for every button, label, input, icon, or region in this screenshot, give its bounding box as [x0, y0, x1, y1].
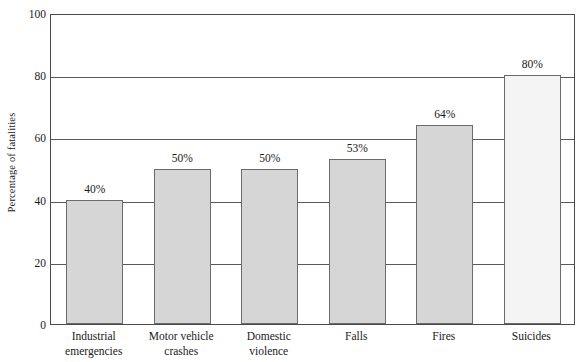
- bar-value-label: 40%: [84, 183, 105, 195]
- bar: [416, 125, 473, 324]
- y-tick-label-20: 20: [4, 257, 46, 269]
- x-label-line: Domestic: [247, 329, 291, 344]
- bar-value-label: 50%: [259, 152, 280, 164]
- bar-value-label: 53%: [347, 142, 368, 154]
- y-tick-label-80: 80: [4, 70, 46, 82]
- y-axis-tick-labels: 020406080100: [0, 14, 46, 325]
- y-tick-label-0: 0: [4, 319, 46, 331]
- gridline-20: [51, 264, 574, 265]
- x-axis-label: Suicides: [512, 329, 551, 344]
- bar: [329, 159, 386, 324]
- x-axis-label: Industrialemergencies: [65, 329, 122, 359]
- gridline-60: [51, 139, 574, 140]
- plot-area: 40%50%50%53%64%80%: [50, 14, 575, 325]
- x-axis-category-labels: IndustrialemergenciesMotor vehiclecrashe…: [50, 329, 575, 362]
- x-label-line: Motor vehicle: [149, 329, 214, 344]
- x-axis-label: Motor vehiclecrashes: [149, 329, 214, 359]
- bar: [66, 200, 123, 324]
- gridline-80: [51, 77, 574, 78]
- y-tick-label-60: 60: [4, 132, 46, 144]
- gridline-40: [51, 202, 574, 203]
- bar-value-label: 80%: [522, 58, 543, 70]
- x-label-line: Industrial: [65, 329, 122, 344]
- bar: [504, 75, 561, 324]
- x-label-line: crashes: [149, 344, 214, 359]
- x-label-line: violence: [247, 344, 291, 359]
- x-label-line: Falls: [345, 329, 367, 344]
- bar-value-label: 50%: [172, 152, 193, 164]
- bar-value-label: 64%: [434, 108, 455, 120]
- x-axis-label: Falls: [345, 329, 367, 344]
- x-label-line: Suicides: [512, 329, 551, 344]
- bar: [241, 169, 298, 325]
- x-label-line: Fires: [432, 329, 455, 344]
- bar-chart-figure: Percentage of fatalities 020406080100 40…: [0, 0, 581, 362]
- x-axis-label: Domesticviolence: [247, 329, 291, 359]
- x-label-line: emergencies: [65, 344, 122, 359]
- x-axis-label: Fires: [432, 329, 455, 344]
- bar: [154, 169, 211, 325]
- y-tick-label-100: 100: [4, 8, 46, 20]
- y-tick-label-40: 40: [4, 195, 46, 207]
